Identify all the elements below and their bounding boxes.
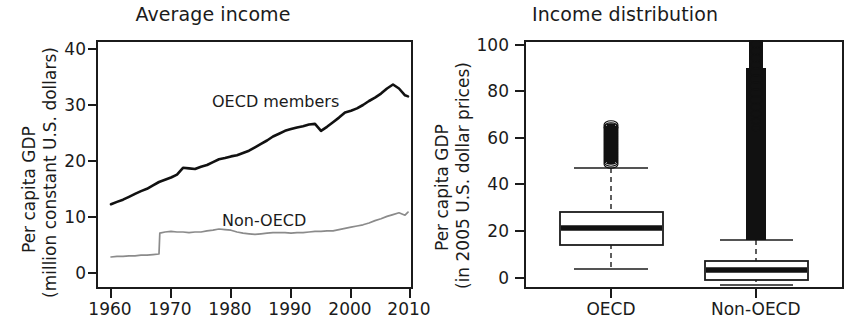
x-tick-mark-left-1970 — [170, 289, 172, 298]
x-tick-mark-left-2000 — [350, 289, 352, 298]
x-tick-label-left-2000: 2000 — [321, 301, 379, 318]
x-tick-mark-left-1980 — [230, 289, 232, 298]
plot-area-right — [524, 40, 844, 289]
y-tick-label-left-0: 0 — [50, 265, 86, 282]
y-tick-label-left-40: 40 — [50, 41, 86, 58]
y-tick-mark-right-100 — [515, 44, 524, 46]
x-tick-mark-right-oecd — [610, 289, 612, 298]
y-tick-mark-right-60 — [515, 137, 524, 139]
y-axis-label-left-line2: (million constant U.S. dollars) — [41, 47, 60, 298]
y-tick-label-right-20: 20 — [461, 223, 509, 240]
y-tick-label-right-0: 0 — [461, 270, 509, 287]
boxplot-oecd — [560, 121, 663, 269]
y-tick-label-left-10: 10 — [50, 209, 86, 226]
panel-income-distribution: Income distribution Per capita GDP (in 2… — [417, 0, 834, 323]
x-tick-label-right-non-oecd: Non-OECD — [711, 301, 799, 318]
y-axis-label-right-line1: Per capita GDP — [433, 124, 452, 251]
x-tick-mark-left-1960 — [110, 289, 112, 298]
x-tick-label-left-1960: 1960 — [81, 301, 139, 318]
panel-average-income: Average income Per capita GDP (million c… — [0, 0, 417, 323]
y-tick-label-right-40: 40 — [461, 176, 509, 193]
series-annotation-non-oecd: Non-OECD — [222, 211, 306, 230]
y-tick-label-left-20: 20 — [50, 153, 86, 170]
boxplot-non-oecd — [705, 40, 808, 285]
y-tick-mark-right-80 — [515, 90, 524, 92]
y-tick-label-left-30: 30 — [50, 97, 86, 114]
x-tick-label-right-oecd: OECD — [567, 301, 655, 318]
x-tick-mark-left-2010 — [409, 289, 411, 298]
y-tick-mark-right-20 — [515, 230, 524, 232]
y-tick-mark-right-0 — [515, 277, 524, 279]
series-annotation-oecd-members: OECD members — [212, 92, 339, 111]
y-tick-label-right-60: 60 — [461, 130, 509, 147]
x-tick-label-left-1970: 1970 — [141, 301, 199, 318]
x-tick-mark-left-1990 — [290, 289, 292, 298]
plot-area-left — [96, 40, 413, 289]
y-tick-label-right-80: 80 — [461, 83, 509, 100]
panel-title-income-distribution: Income distribution — [425, 1, 825, 27]
x-tick-label-left-1980: 1980 — [201, 301, 259, 318]
y-axis-label-left-line1: Per capita GDP — [20, 126, 39, 253]
panel-title-average-income: Average income — [18, 1, 408, 27]
y-tick-mark-right-40 — [515, 183, 524, 185]
y-tick-label-right-100: 100 — [461, 37, 509, 54]
x-tick-label-left-1990: 1990 — [261, 301, 319, 318]
x-tick-mark-right-non-oecd — [755, 289, 757, 298]
